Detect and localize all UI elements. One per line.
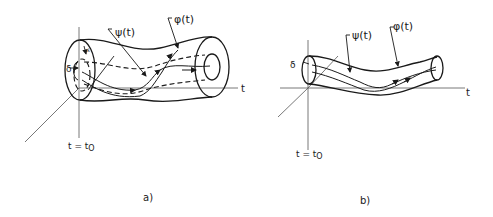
figure-canvas: ψ(t) φ(t) t δ ε t = tO a) (0, 0, 493, 217)
tube-start-ellipse-b (302, 56, 316, 84)
delta-label-b: δ (290, 60, 296, 70)
t-axis-label-b: t (466, 87, 470, 98)
origin-label-b-sub: O (316, 152, 322, 161)
depth-axis-a (25, 88, 79, 142)
t-axis-label-a: t (241, 83, 245, 94)
epsilon-arrow-a (84, 46, 86, 54)
axes-a (25, 27, 238, 142)
psi-trajectory-a (82, 66, 210, 90)
tube-end-inner-ellipse-a (204, 54, 220, 80)
phi-label-b: φ(t) (393, 20, 413, 33)
phi-label-a: φ(t) (174, 13, 194, 26)
tube-top-contour-a (80, 37, 212, 49)
tube-b (302, 56, 443, 95)
tube-bottom-contour-a (80, 97, 212, 101)
psi-label-a: ψ(t) (115, 26, 135, 39)
tube-bottom-contour-b (309, 80, 437, 95)
inner-tube-top-a (84, 55, 205, 69)
delta-label-a: δ (66, 64, 72, 74)
origin-label-b-main: t = t (296, 149, 317, 159)
psi-trajectory-b (312, 65, 436, 88)
caption-a: a) (143, 192, 153, 203)
depth-guide-a (88, 56, 114, 90)
origin-label-b: t = tO (296, 149, 323, 161)
origin-label-a: t = tO (68, 141, 95, 153)
epsilon-label-a: ε (87, 46, 90, 53)
panel-a: ψ(t) φ(t) t δ ε t = tO a) (25, 13, 245, 203)
psi-label-b: ψ(t) (352, 29, 372, 42)
caption-b: b) (360, 195, 370, 206)
origin-label-a-sub: O (88, 144, 94, 153)
origin-label-a-main: t = t (68, 141, 89, 151)
panel-b: ψ(t) φ(t) t δ t = tO b) (278, 20, 470, 206)
depth-axis-b (278, 88, 308, 117)
psi-leader-b (346, 35, 350, 72)
